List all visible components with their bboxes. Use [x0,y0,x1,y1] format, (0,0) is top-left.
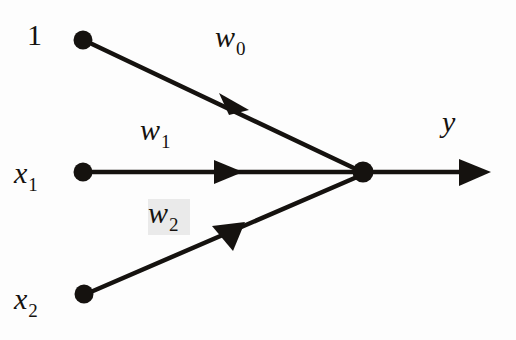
summation-node [353,162,374,183]
edge-output-y [370,159,491,186]
label-input-x1-subscript: 1 [28,174,38,195]
label-weight-w0: w0 [215,22,245,52]
edge-w1 [92,160,355,184]
edge-w0-line [92,44,358,170]
label-weight-w1: w1 [140,115,170,145]
label-input-x2-base: x [14,282,27,315]
edge-output-arrowhead [459,159,491,186]
label-weight-w0-base: w [215,20,235,53]
label-output-y-base: y [442,105,455,138]
label-input-x2: x2 [14,284,37,314]
label-weight-w1-subscript: 1 [161,131,171,152]
diagram-canvas: 1 x1 x2 w0 w1 w2 y [0,0,516,340]
label-input-x2-subscript: 2 [28,300,38,321]
label-bias-input-text: 1 [27,18,42,51]
label-weight-w2-subscript: 2 [169,214,179,235]
label-input-x1-base: x [14,156,27,189]
label-bias-input: 1 [27,20,42,50]
label-weight-w2: w2 [148,198,178,228]
label-output-y: y [442,107,455,137]
edge-w0 [92,44,358,170]
edge-w1-arrowhead [214,160,243,184]
label-weight-w2-base: w [148,196,168,229]
label-weight-w0-subscript: 0 [236,38,246,59]
edge-w2 [93,177,357,291]
label-input-x1: x1 [14,158,37,188]
input-node-x1 [74,163,93,182]
perceptron-graph [0,0,516,340]
input-node-bias [74,31,93,50]
label-weight-w1-base: w [140,113,160,146]
input-node-x2 [75,285,94,304]
